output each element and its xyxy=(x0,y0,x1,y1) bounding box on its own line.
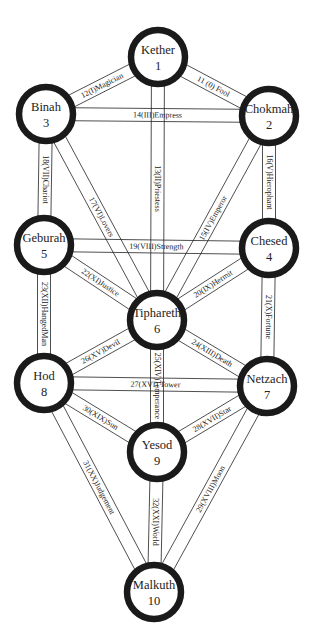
path-1-6: 13(II)Priestess xyxy=(151,57,165,320)
path-label: 27(XVI) Tower xyxy=(131,380,181,390)
sephira-circle xyxy=(242,89,296,143)
sephira-number: 6 xyxy=(154,322,160,336)
path-edge-line xyxy=(163,57,164,320)
path-edge-line xyxy=(50,380,160,589)
path-label: 16(V)Hierophant xyxy=(265,154,274,210)
sephira-name: Chesed xyxy=(251,234,289,248)
sephira-malkuth: Malkuth10 xyxy=(127,565,181,619)
sephira-number: 4 xyxy=(266,250,273,264)
sephira-yesod: Yesod9 xyxy=(130,425,184,479)
sephira-number: 7 xyxy=(264,388,270,402)
sephira-circle xyxy=(240,359,294,413)
sephira-number: 2 xyxy=(266,118,272,132)
path-label: 26(XV)Devil xyxy=(80,337,122,366)
sephira-hod: Hod8 xyxy=(17,356,71,410)
path-label: 19(VIII)Strength xyxy=(129,242,183,252)
sephira-binah: Binah3 xyxy=(19,87,73,141)
sephira-number: 9 xyxy=(154,454,160,468)
path-edge-line xyxy=(46,120,269,122)
path-label: 21(X)Fortune xyxy=(264,295,273,339)
path-label: 22(XI)Justice xyxy=(80,267,122,299)
path-label: 29(XVIII)Moon xyxy=(194,464,227,514)
sephira-circle xyxy=(130,293,184,347)
sephira-name: Chokmah xyxy=(245,102,294,116)
sephira-number: 5 xyxy=(41,247,47,261)
sephira-circle xyxy=(127,565,181,619)
path-label: 13(II)Priestess xyxy=(153,165,162,212)
path-label: 15(IV)Emperor xyxy=(197,194,229,242)
sephira-netzach: Netzach7 xyxy=(240,359,294,413)
path-label: 11 (0) Fool xyxy=(196,74,232,99)
path-label: 24(XIII)Death xyxy=(190,337,234,368)
path-label: 32(XXI)World xyxy=(151,498,160,545)
path-label: 12(I)Magician xyxy=(79,71,124,100)
path-label: 18(VII)Chariot xyxy=(41,155,50,204)
sephira-name: Netzach xyxy=(247,372,289,386)
sephira-name: Binah xyxy=(31,100,62,114)
sephira-name: Yesod xyxy=(142,438,173,452)
sephira-circle xyxy=(19,87,73,141)
sephira-number: 1 xyxy=(155,59,161,73)
path-5-4: 19(VIII)Strength xyxy=(44,239,269,255)
path-edge-line xyxy=(46,108,269,110)
sephira-circle xyxy=(17,218,71,272)
sephira-chokmah: Chokmah2 xyxy=(242,89,296,143)
path-edge-line xyxy=(44,251,269,254)
sephira-number: 8 xyxy=(41,385,47,399)
path-edge-line xyxy=(148,383,261,589)
tree-of-life-diagram: 11 (0) Fool12(I)Magician13(II)Priestess1… xyxy=(0,0,313,638)
sephira-circle xyxy=(130,425,184,479)
sephira-circle xyxy=(131,30,185,84)
sephira-name: Malkuth xyxy=(133,578,176,592)
sephira-circle xyxy=(17,356,71,410)
path-label: 17(VI)Lovers xyxy=(87,196,116,239)
sephira-name: Hod xyxy=(33,369,55,383)
path-label: 30(XIX)Sun xyxy=(81,403,120,432)
sephira-geburah: Geburah5 xyxy=(17,218,71,272)
path-label: 20(IX)Hermit xyxy=(192,268,235,300)
path-label: 31(XX)Judgement xyxy=(81,459,117,517)
sephira-kether: Kether1 xyxy=(131,30,185,84)
sephira-tiphareth: Tiphareth6 xyxy=(130,293,184,347)
sephira-name: Kether xyxy=(141,43,176,57)
sephira-name: Tiphareth xyxy=(133,306,182,320)
sephira-name: Geburah xyxy=(22,231,66,245)
path-3-2: 14(III)Empress xyxy=(46,108,269,123)
path-label: 28(XVII)Star xyxy=(191,404,233,434)
sephira-number: 3 xyxy=(43,116,49,130)
path-edge-line xyxy=(151,57,152,320)
sephira-number: 10 xyxy=(148,594,161,608)
path-label: 23(XII)HangedMan xyxy=(40,282,49,346)
sephira-chesed: Chesed4 xyxy=(242,221,296,275)
path-label: 14(III)Empress xyxy=(133,110,182,119)
sephira-circle xyxy=(242,221,296,275)
